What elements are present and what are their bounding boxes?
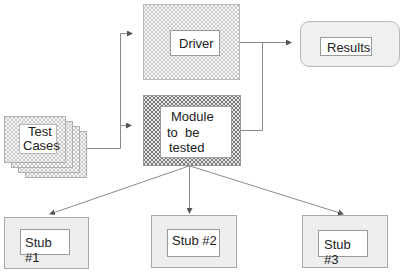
edge-testcases-driver bbox=[87, 34, 132, 149]
edge-module-results bbox=[241, 43, 263, 131]
driver-label: Driver bbox=[170, 30, 220, 56]
module-label: Module to be tested bbox=[160, 106, 232, 158]
edge-module-stub3 bbox=[190, 166, 343, 214]
test-cases-label: Test Cases bbox=[19, 124, 57, 154]
stub2-label: Stub #2 bbox=[167, 229, 220, 257]
stub3-label: Stub #3 bbox=[318, 230, 368, 257]
results-label: Results bbox=[320, 37, 372, 56]
stub1-label: Stub #1 bbox=[20, 229, 70, 255]
